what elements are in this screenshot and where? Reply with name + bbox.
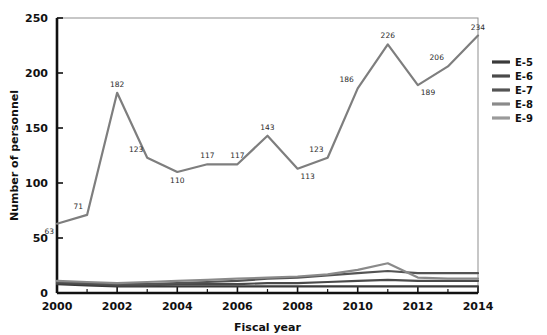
data-point-label: 182 <box>110 80 125 89</box>
x-tick-label: 2004 <box>162 300 193 313</box>
data-point-label: 117 <box>230 151 245 160</box>
legend-label-e-9: E-9 <box>515 113 533 124</box>
data-point-label: 234 <box>471 23 486 32</box>
legend-label-e-5: E-5 <box>515 57 533 68</box>
x-tick-label: 2006 <box>222 300 253 313</box>
y-axis-title: Number of personnel <box>8 90 21 221</box>
y-tick-label: 200 <box>25 67 48 80</box>
data-point-label: 123 <box>129 145 144 154</box>
x-tick-label: 2014 <box>463 300 494 313</box>
data-point-label: 226 <box>381 31 396 40</box>
data-point-label: 186 <box>339 75 354 84</box>
legend-label-e-7: E-7 <box>515 85 533 96</box>
x-tick-label: 2012 <box>403 300 434 313</box>
x-tick-label: 2010 <box>342 300 373 313</box>
data-point-label: 71 <box>74 202 84 211</box>
data-point-label: 110 <box>170 176 185 185</box>
data-point-label: 189 <box>421 88 436 97</box>
legend-label-e-6: E-6 <box>515 71 533 82</box>
data-point-label: 143 <box>260 123 275 132</box>
data-point-label: 113 <box>301 172 316 181</box>
x-tick-label: 2002 <box>102 300 133 313</box>
y-tick-label: 250 <box>25 12 48 25</box>
y-tick-label: 150 <box>25 122 48 135</box>
y-tick-label: 0 <box>40 287 48 300</box>
x-tick-label: 2008 <box>282 300 313 313</box>
chart-canvas: 0501001502002502000200220042006200820102… <box>0 0 547 335</box>
y-tick-label: 100 <box>25 177 48 190</box>
line-chart-figure: 0501001502002502000200220042006200820102… <box>0 0 547 335</box>
x-tick-label: 2000 <box>42 300 73 313</box>
x-axis-title: Fiscal year <box>234 321 301 334</box>
data-point-label: 117 <box>200 151 215 160</box>
legend-label-e-8: E-8 <box>515 99 533 110</box>
data-point-label: 123 <box>309 145 324 154</box>
data-point-label: 63 <box>44 227 54 236</box>
data-point-label: 206 <box>430 53 445 62</box>
plot-area-border <box>57 18 478 293</box>
